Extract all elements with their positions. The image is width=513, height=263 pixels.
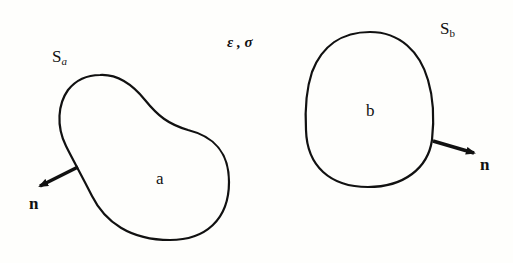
surface-subscript-a: a bbox=[61, 55, 67, 67]
surface-label-b: Sb bbox=[440, 20, 455, 39]
diagram-svg bbox=[0, 0, 513, 263]
field-label: ε , σ bbox=[227, 35, 253, 50]
body-a-outline bbox=[59, 75, 229, 240]
normal-arrow-b bbox=[433, 141, 474, 153]
region-label-b: b bbox=[366, 102, 375, 119]
normal-label-b: n bbox=[480, 156, 489, 173]
surface-label-a: Sa bbox=[52, 48, 67, 67]
surface-subscript-b: b bbox=[449, 27, 455, 39]
normal-label-a: n bbox=[29, 195, 38, 212]
normal-arrow-a bbox=[40, 167, 78, 186]
diagram-canvas: ε , σ Sa a n Sb b n bbox=[0, 0, 513, 263]
region-label-a: a bbox=[156, 170, 164, 187]
